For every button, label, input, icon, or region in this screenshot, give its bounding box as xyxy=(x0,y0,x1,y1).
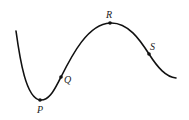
point-q-label: Q xyxy=(64,74,72,85)
point-s-marker xyxy=(147,52,151,56)
point-r-label: R xyxy=(105,9,112,20)
point-s-label: S xyxy=(150,41,155,52)
point-q-marker xyxy=(59,75,63,79)
curve xyxy=(16,23,176,100)
point-p-marker xyxy=(38,98,42,102)
curve-diagram: P Q R S xyxy=(0,0,189,120)
point-r-marker xyxy=(108,21,112,25)
point-p-label: P xyxy=(36,104,43,115)
